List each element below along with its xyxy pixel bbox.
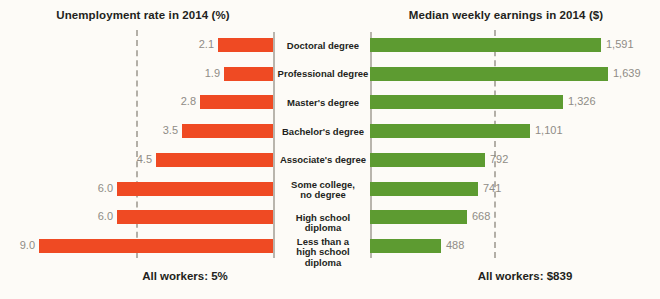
earnings-value-label: 488 — [446, 238, 464, 253]
category-label-column: Doctoral degreeProfessional degreeMaster… — [277, 30, 369, 258]
category-label: Doctoral degree — [277, 41, 369, 52]
earnings-bar-row: 792 — [352, 153, 660, 167]
unemployment-plot-area: 2.11.92.83.54.56.06.09.0 — [0, 30, 286, 258]
earnings-value-label: 1,591 — [606, 37, 634, 52]
earnings-bar — [370, 124, 530, 138]
earnings-bar — [370, 153, 485, 167]
earnings-value-label: 668 — [472, 209, 490, 224]
right-panel-title: Median weekly earnings in 2014 ($) — [352, 9, 660, 21]
earnings-bar-row: 668 — [352, 210, 660, 224]
unemployment-bar — [117, 210, 273, 224]
unemployment-bar — [182, 124, 273, 138]
unemployment-value-label: 4.5 — [0, 152, 152, 167]
category-label: High school diploma — [277, 213, 369, 234]
earnings-plot-area: 1,5911,6391,3261,101792741668488 — [352, 30, 660, 258]
unemployment-bar-row: 6.0 — [0, 210, 286, 224]
left-panel-title: Unemployment rate in 2014 (%) — [0, 9, 286, 21]
earnings-bar — [370, 38, 601, 52]
unemployment-bar — [39, 239, 273, 253]
unemployment-value-label: 3.5 — [0, 123, 178, 138]
unemployment-bar — [218, 38, 273, 52]
earnings-value-label: 792 — [490, 152, 508, 167]
earnings-bar — [370, 67, 608, 81]
unemployment-bar — [224, 67, 273, 81]
unemployment-bar — [200, 95, 273, 109]
unemployment-bar-row: 6.0 — [0, 182, 286, 196]
right-panel-footnote: All workers: $839 — [400, 270, 650, 282]
earnings-value-label: 1,101 — [535, 123, 563, 138]
category-label: Master's degree — [277, 98, 369, 109]
category-label: Less than a high school diploma — [277, 237, 369, 269]
unemployment-bar-row: 2.8 — [0, 95, 286, 109]
category-label: Some college, no degree — [277, 180, 369, 201]
earnings-bar-row: 1,326 — [352, 95, 660, 109]
unemployment-value-label: 2.1 — [0, 37, 214, 52]
unemployment-value-label: 6.0 — [0, 209, 113, 224]
earnings-bar-row: 1,591 — [352, 38, 660, 52]
earnings-value-label: 1,326 — [568, 94, 596, 109]
unemployment-bar-row: 9.0 — [0, 239, 286, 253]
earnings-bar — [370, 95, 563, 109]
earnings-bar — [370, 182, 478, 196]
unemployment-bar-row: 1.9 — [0, 67, 286, 81]
unemployment-bar — [117, 182, 273, 196]
unemployment-value-label: 2.8 — [0, 94, 196, 109]
category-label: Associate's degree — [277, 155, 369, 166]
unemployment-bar-row: 4.5 — [0, 153, 286, 167]
unemployment-value-label: 1.9 — [0, 66, 220, 81]
chart-figure: Unemployment rate in 2014 (%) Median wee… — [0, 0, 660, 299]
earnings-bar-row: 488 — [352, 239, 660, 253]
earnings-bar — [370, 210, 467, 224]
earnings-bar-row: 1,101 — [352, 124, 660, 138]
earnings-bar — [370, 239, 441, 253]
unemployment-value-label: 6.0 — [0, 181, 113, 196]
earnings-bar-row: 741 — [352, 182, 660, 196]
earnings-bar-row: 1,639 — [352, 67, 660, 81]
unemployment-value-label: 9.0 — [0, 238, 35, 253]
unemployment-bar-row: 3.5 — [0, 124, 286, 138]
unemployment-bar-row: 2.1 — [0, 38, 286, 52]
earnings-value-label: 741 — [483, 181, 501, 196]
unemployment-bar — [156, 153, 273, 167]
category-label: Professional degree — [277, 69, 369, 80]
category-label: Bachelor's degree — [277, 127, 369, 138]
left-panel-footnote: All workers: 5% — [60, 270, 310, 282]
earnings-value-label: 1,639 — [613, 66, 641, 81]
